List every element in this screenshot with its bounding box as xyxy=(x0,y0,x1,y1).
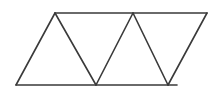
figure-canvas xyxy=(0,0,219,93)
triangle-strip-diagram xyxy=(0,0,219,93)
